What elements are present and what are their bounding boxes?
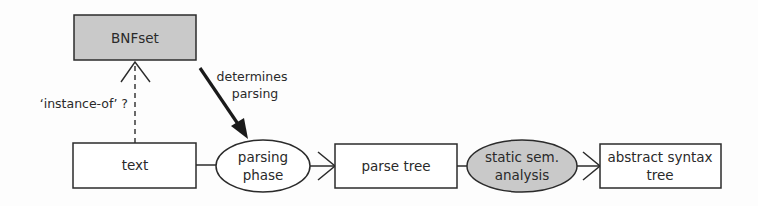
diagram-canvas: BNFset ‘instance-of’ ? determines parsin… <box>0 0 758 206</box>
static-sem-line2: analysis <box>495 167 550 183</box>
determines-label: determines <box>217 69 288 84</box>
parsing-label: parsing <box>232 86 279 101</box>
node-parse-tree: parse tree <box>335 144 457 188</box>
static-sem-ellipse <box>467 140 577 192</box>
static-sem-line1: static sem. <box>485 149 559 165</box>
edge-instance-of: ‘instance-of’ ? <box>40 62 150 143</box>
edge-static-to-ast <box>577 152 600 180</box>
ast-line1: abstract syntax <box>607 149 712 165</box>
parsing-phase-line2: phase <box>243 167 284 183</box>
parsing-phase-ellipse <box>216 140 310 192</box>
text-label: text <box>122 157 149 173</box>
node-static-sem-analysis: static sem. analysis <box>467 140 577 192</box>
node-bnfset: BNFset <box>74 15 196 60</box>
ast-line2: tree <box>646 167 673 183</box>
node-abstract-syntax-tree: abstract syntax tree <box>600 144 721 188</box>
parsing-phase-line1: parsing <box>238 149 288 165</box>
instance-of-label: ‘instance-of’ ? <box>40 96 128 111</box>
edge-parsing-to-parsetree <box>310 152 335 180</box>
node-text: text <box>73 143 196 188</box>
node-parsing-phase: parsing phase <box>216 140 310 192</box>
parse-tree-label: parse tree <box>361 158 430 174</box>
filled-arrowhead-icon <box>231 118 248 139</box>
bnfset-label: BNFset <box>111 30 159 46</box>
edge-determines-parsing: determines parsing <box>200 68 287 139</box>
